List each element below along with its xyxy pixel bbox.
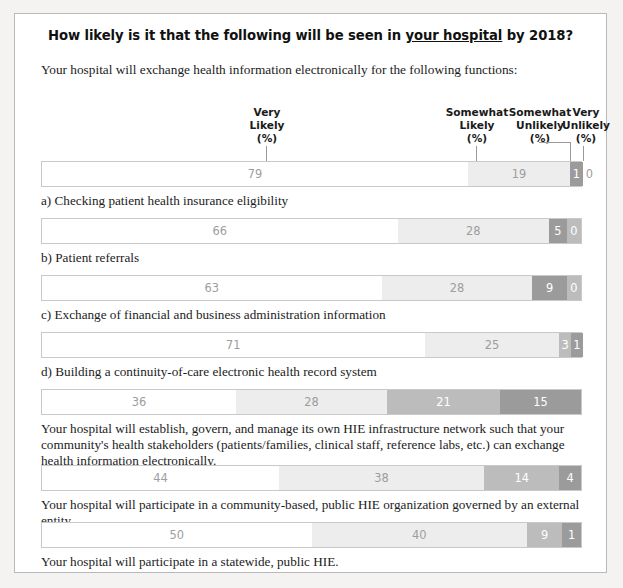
bar-segment-very-unlikely: 0 (567, 219, 581, 243)
title-part1: How likely is it that the following will… (48, 28, 405, 43)
header-very-likely: Very Likely (%) (227, 106, 307, 146)
row-caption-7: Your hospital will participate in a stat… (41, 554, 597, 570)
chart-page: How likely is it that the following will… (14, 13, 607, 573)
bar-segment-very-unlikely: 1 (571, 333, 583, 357)
header-very-unlikely-line1: Very (555, 106, 617, 119)
bar-segment-very-likely: 79 (42, 162, 468, 186)
bar-row-2: 66 28 5 0 (41, 218, 582, 244)
bar-segment-very-unlikely: 0 (583, 162, 596, 186)
bar-segment-very-likely: 66 (42, 219, 398, 243)
bar-segment-somewhat-unlikely: 3 (559, 333, 570, 357)
header-very-likely-line3: (%) (227, 132, 307, 145)
header-very-likely-line1: Very (227, 106, 307, 119)
bar-segment-somewhat-unlikely: 5 (549, 219, 567, 243)
header-very-likely-line2: Likely (227, 119, 307, 132)
bar-segment-very-likely: 44 (42, 466, 279, 490)
bar-segment-very-unlikely: 0 (567, 276, 581, 300)
intro-text: Your hospital will exchange health infor… (41, 62, 518, 78)
bar-segment-somewhat-unlikely: 21 (387, 390, 500, 414)
header-very-unlikely-line3: (%) (555, 132, 617, 145)
leader-line-very-unlikely (583, 146, 584, 161)
bar-segment-somewhat-likely: 28 (382, 276, 533, 300)
leader-line-somewhat-likely (476, 146, 477, 161)
bar-segment-somewhat-unlikely: 14 (484, 466, 559, 490)
bar-segment-somewhat-likely: 28 (398, 219, 549, 243)
title-underlined: your hospital (405, 28, 502, 43)
row-caption-5: Your hospital will establish, govern, an… (41, 421, 597, 469)
bar-segment-very-likely: 36 (42, 390, 236, 414)
row-caption-4: d) Building a continuity-of-care electro… (41, 364, 597, 380)
chart-body: How likely is it that the following will… (15, 14, 606, 572)
row-caption-1: a) Checking patient health insurance eli… (41, 193, 597, 209)
bar-segment-very-unlikely: 1 (562, 523, 581, 547)
title-part2: by 2018? (502, 28, 573, 43)
bar-row-5: 36 28 21 15 (41, 389, 582, 415)
leader-line-somewhat-unlikely-vertical (570, 142, 571, 161)
leader-line-somewhat-unlikely-horizontal (539, 142, 570, 143)
bar-segment-somewhat-likely: 25 (425, 333, 560, 357)
row-caption-3: c) Exchange of financial and business ad… (41, 307, 597, 323)
bar-segment-very-likely: 71 (42, 333, 425, 357)
bar-segment-somewhat-unlikely: 9 (532, 276, 566, 300)
leader-line-very-likely (266, 146, 267, 161)
bar-row-3: 63 28 9 0 (41, 275, 582, 301)
bar-segment-very-unlikely: 4 (559, 466, 581, 490)
bar-segment-very-likely: 50 (42, 523, 312, 547)
bar-row-6: 44 38 14 4 (41, 465, 582, 491)
bar-segment-very-unlikely: 15 (500, 390, 581, 414)
header-very-unlikely-line2: Unlikely (555, 119, 617, 132)
bar-segment-somewhat-unlikely: 1 (570, 162, 582, 186)
row-caption-2: b) Patient referrals (41, 250, 597, 266)
page-title: How likely is it that the following will… (15, 28, 606, 43)
bar-segment-somewhat-unlikely: 9 (527, 523, 562, 547)
bar-segment-very-likely: 63 (42, 276, 382, 300)
bar-row-4: 71 25 3 1 (41, 332, 582, 358)
bar-row-7: 50 40 9 1 (41, 522, 582, 548)
bar-segment-somewhat-likely: 38 (279, 466, 484, 490)
bar-segment-somewhat-likely: 28 (236, 390, 387, 414)
bar-segment-somewhat-likely: 19 (468, 162, 570, 186)
bar-segment-somewhat-likely: 40 (312, 523, 528, 547)
bar-row-1: 79 19 1 0 (41, 161, 582, 187)
header-very-unlikely: Very Unlikely (%) (555, 106, 617, 146)
